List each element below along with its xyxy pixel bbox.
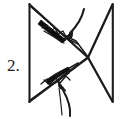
lower-pleat-zigzag [41, 67, 70, 85]
square-sheet-outline [30, 4, 113, 102]
bottom-fold-arrow [58, 81, 70, 116]
step-number-label: 2. [7, 56, 20, 76]
lower-folded-flap [30, 58, 88, 100]
lower-flap-edge [30, 58, 88, 100]
crease-diagonals [30, 5, 113, 102]
top-arrow-shaft [70, 9, 84, 33]
origami-step-figure: 2. [0, 0, 120, 119]
bottom-arrow-secondary-shaft [59, 88, 62, 115]
bottom-arrow-shaft [63, 90, 70, 116]
crease-top-right-to-center [88, 5, 113, 58]
top-fold-arrow [64, 9, 84, 39]
crease-center-to-bottom-right [88, 58, 113, 102]
